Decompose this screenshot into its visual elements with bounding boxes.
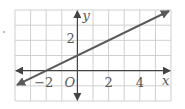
x-tick-label-4: 4 bbox=[136, 76, 144, 89]
y-axis-label: y bbox=[82, 9, 89, 22]
x-tick-label-neg2: −2 bbox=[34, 76, 53, 89]
x-tick-label-2: 2 bbox=[105, 76, 113, 89]
origin-label: O bbox=[64, 76, 75, 89]
margin-mark bbox=[3, 31, 5, 33]
coordinate-plane bbox=[0, 0, 185, 109]
y-tick-label-2: 2 bbox=[66, 32, 74, 45]
x-axis-label: x bbox=[162, 74, 169, 87]
